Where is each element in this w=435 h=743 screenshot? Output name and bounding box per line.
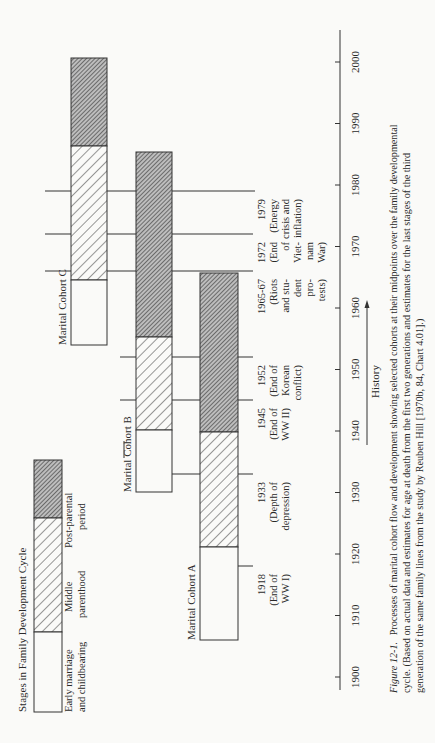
event-1972-label-line-4: nam — [304, 242, 315, 260]
legend-early-line2: and childbearing — [76, 641, 87, 712]
event-1933-label-line-1: (Depth of — [268, 481, 280, 522]
event-1952-label-line-0: 1952 — [256, 365, 267, 386]
legend-swatch-early — [34, 632, 62, 712]
history-label: History — [369, 365, 381, 399]
event-1979-label-line-0: 1979 — [256, 199, 267, 220]
axis-label-1920: 1920 — [349, 543, 361, 566]
event-1966-label-line-0: 1965-67 — [256, 279, 267, 314]
cohort-c-middle — [71, 146, 107, 280]
figure-caption: Figure 12-1. Processes of marital cohort… — [388, 124, 426, 694]
event-1952-label-line-3: conflict) — [292, 365, 304, 401]
event-1918-label-line-0: 1918 — [256, 574, 267, 595]
event-1966-label-line-3: dent — [292, 279, 303, 297]
event-labels: 1918(End ofWW I)1933(Depth ofdepression)… — [256, 198, 328, 606]
cohort-c-early — [71, 280, 107, 345]
axis-label-1910: 1910 — [349, 604, 361, 627]
axis-label-1900: 1900 — [349, 666, 361, 689]
svg-text:Figure 12-1. Processes o: Figure 12-1. Processes of marital cohort… — [388, 124, 399, 694]
cohort-b-post — [136, 152, 172, 337]
event-1933-label-line-0: 1933 — [256, 482, 267, 503]
event-1918-label-line-1: (End of — [268, 574, 280, 606]
history-arrow: History — [365, 300, 382, 445]
legend-post-line1: Post-parental — [63, 493, 74, 548]
event-1972-label-line-2: of — [280, 242, 291, 251]
event-1945-label-line-0: 1945 — [256, 408, 267, 429]
event-1966-label-line-1: (Riots — [268, 279, 280, 305]
cohort-a-middle — [200, 432, 238, 547]
cohort-b-middle — [136, 337, 172, 430]
legend-swatch-middle — [34, 518, 62, 632]
year-axis: 1900191019201930194019501960197019801990… — [335, 30, 361, 690]
cohort-a-post — [200, 273, 238, 432]
cohort-flow-chart: Marital Cohort C Marital Cohort B Marita… — [0, 0, 435, 743]
cohort-c-label: Marital Cohort C — [56, 269, 68, 345]
caption-line3: generation of the same family lines from… — [414, 319, 426, 693]
cohort-a-label: Marital Cohort A — [185, 564, 197, 640]
cohort-b-bar — [136, 152, 172, 492]
event-1972-label-line-1: (End — [268, 241, 280, 262]
event-1966-label-line-5: tests) — [316, 279, 328, 302]
event-1945-label-line-1: (End of — [268, 408, 280, 440]
legend-swatch-post — [34, 460, 62, 518]
cohort-c-post — [71, 58, 107, 146]
legend-title: Stages in Family Development Cycle — [16, 548, 28, 712]
event-1972-label-line-0: 1972 — [256, 242, 267, 263]
event-1979-label-line-2: crisis and — [280, 198, 291, 239]
event-1966-label-line-2: and stu- — [280, 279, 291, 313]
cohort-a-early — [200, 547, 238, 640]
axis-label-1930: 1930 — [349, 481, 361, 504]
legend-early-line1: Early marriage — [63, 649, 74, 712]
event-1966-label-line-4: pro- — [304, 279, 315, 297]
cohort-b-label: Marital Cohort B — [121, 416, 133, 492]
legend: Stages in Family Development Cycle Early… — [16, 460, 87, 712]
event-1979-label-line-1: (Energy — [268, 198, 280, 232]
event-1972-label-line-5: War) — [316, 242, 328, 263]
event-1952-label-line-2: Korean — [280, 364, 291, 396]
legend-middle-line1: Middle — [63, 581, 74, 612]
cohort-a-bar — [200, 273, 238, 640]
event-1933-label-line-2: depression) — [280, 481, 292, 530]
axis-label-1960: 1960 — [349, 297, 361, 320]
event-1945-label-line-2: WW II) — [280, 408, 292, 441]
legend-middle-line2: parenthood — [76, 570, 87, 618]
legend-post-line2: period — [76, 502, 87, 530]
axis-label-1990: 1990 — [349, 112, 361, 135]
axis-label-1970: 1970 — [349, 235, 361, 258]
axis-label-1980: 1980 — [349, 174, 361, 197]
event-1918-label-line-2: WW I) — [280, 573, 292, 603]
axis-label-1950: 1950 — [349, 358, 361, 381]
event-1972-label-line-3: Viet- — [292, 242, 303, 263]
axis-label-1940: 1940 — [349, 420, 361, 443]
event-1979-label-line-3: inflation) — [292, 199, 304, 239]
caption-line2: cycle. (Based on actual data and estimat… — [401, 153, 413, 693]
cohort-c-bar — [71, 58, 107, 345]
axis-label-2000: 2000 — [349, 51, 361, 74]
cohort-b-early — [136, 430, 172, 492]
caption-figure-label: Figure 12-1. — [388, 642, 399, 694]
caption-line1: Processes of marital cohort flow and dev… — [388, 124, 399, 635]
event-1952-label-line-1: (End of — [268, 365, 280, 397]
